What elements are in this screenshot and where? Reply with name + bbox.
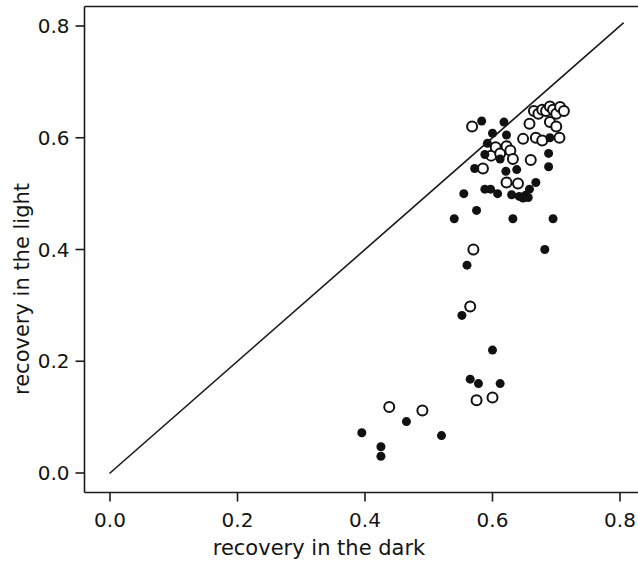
data-point-filled xyxy=(499,118,508,127)
data-point-filled xyxy=(357,428,366,437)
x-tick-label: 0.8 xyxy=(604,508,636,532)
data-point-open xyxy=(384,402,394,412)
data-point-filled xyxy=(477,116,486,125)
data-point-filled xyxy=(488,346,497,355)
data-point-filled xyxy=(450,214,459,223)
data-point-filled xyxy=(545,133,554,142)
data-point-filled xyxy=(531,178,540,187)
data-point-filled xyxy=(470,164,479,173)
data-point-open xyxy=(551,122,561,132)
data-point-filled xyxy=(459,189,468,198)
data-point-filled xyxy=(376,442,385,451)
data-point-filled xyxy=(493,189,502,198)
x-tick-label: 0.4 xyxy=(349,508,381,532)
x-tick-label: 0.2 xyxy=(222,508,254,532)
data-point-filled xyxy=(508,214,517,223)
y-axis-title: recovery in the light xyxy=(10,183,34,395)
data-point-filled xyxy=(496,154,505,163)
x-axis-title: recovery in the dark xyxy=(0,536,638,560)
data-point-filled xyxy=(437,431,446,440)
data-point-filled xyxy=(524,193,533,202)
data-point-open xyxy=(478,163,488,173)
data-point-filled xyxy=(502,130,511,139)
data-point-open xyxy=(518,134,528,144)
data-point-open xyxy=(417,405,427,415)
data-point-filled xyxy=(474,379,483,388)
data-point-open xyxy=(472,395,482,405)
figure-background xyxy=(0,0,638,569)
data-point-filled xyxy=(507,190,516,199)
data-point-filled xyxy=(466,375,475,384)
data-point-open xyxy=(513,179,523,189)
data-point-filled xyxy=(483,139,492,148)
data-point-filled xyxy=(544,149,553,158)
plot-canvas xyxy=(0,0,638,569)
data-point-filled xyxy=(525,185,534,194)
x-tick-label: 0.0 xyxy=(94,508,126,532)
data-point-filled xyxy=(544,162,553,171)
y-tick-label: 0.8 xyxy=(0,14,70,38)
data-point-open xyxy=(508,154,518,164)
data-point-open xyxy=(524,119,534,129)
data-point-filled xyxy=(488,129,497,138)
data-point-filled xyxy=(496,379,505,388)
data-point-open xyxy=(465,301,475,311)
data-point-open xyxy=(502,177,512,187)
data-point-filled xyxy=(457,311,466,320)
y-tick-label: 0.0 xyxy=(0,461,70,485)
data-point-filled xyxy=(540,245,549,254)
scatter-plot-figure: 0.00.20.40.60.8 0.00.20.40.60.8 recovery… xyxy=(0,0,638,569)
data-point-open xyxy=(554,133,564,143)
data-point-open xyxy=(467,122,477,132)
data-point-filled xyxy=(480,150,489,159)
y-tick-label: 0.6 xyxy=(0,126,70,150)
data-point-filled xyxy=(472,206,481,215)
data-point-filled xyxy=(463,261,472,270)
data-point-open xyxy=(468,245,478,255)
x-tick-label: 0.6 xyxy=(477,508,509,532)
data-point-open xyxy=(488,393,498,403)
data-point-open xyxy=(559,106,569,116)
data-point-open xyxy=(526,155,536,165)
data-point-filled xyxy=(501,167,510,176)
data-point-filled xyxy=(512,165,521,174)
data-point-filled xyxy=(376,452,385,461)
data-point-filled xyxy=(549,214,558,223)
data-point-filled xyxy=(402,417,411,426)
